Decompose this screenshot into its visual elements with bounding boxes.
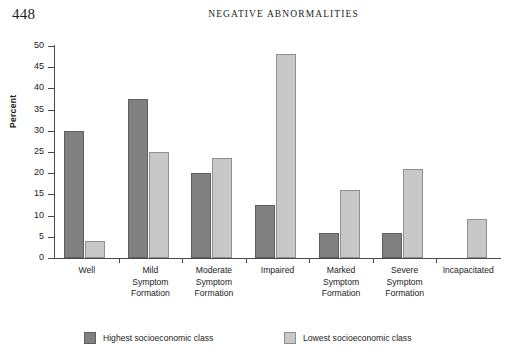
x-axis-group-label: ModerateSymptomFormation (182, 265, 246, 300)
y-axis-tick-label: 50 (24, 40, 44, 50)
bar (319, 233, 339, 258)
legend-label: Highest socioeconomic class (103, 333, 213, 343)
bar (85, 241, 105, 258)
x-axis-tick (119, 258, 120, 263)
y-axis-tick-label: 25 (24, 146, 44, 156)
bar (149, 152, 169, 258)
x-axis-label-line: Symptom (309, 277, 373, 289)
x-axis-tick (373, 258, 374, 263)
legend-swatch-dark (84, 332, 96, 344)
y-axis-tick (48, 216, 55, 217)
x-axis-label-line: Formation (119, 288, 183, 300)
y-axis-tick-label: 10 (24, 210, 44, 220)
x-axis-label-line: Mild (119, 265, 183, 277)
x-axis-line (54, 258, 501, 259)
y-axis-tick-label: 45 (24, 61, 44, 71)
y-axis-tick (48, 194, 55, 195)
x-axis-tick (182, 258, 183, 263)
y-axis-tick-label: 20 (24, 167, 44, 177)
y-axis-tick-label: 30 (24, 125, 44, 135)
y-axis-label: Percent (8, 95, 18, 128)
plot-area (55, 46, 500, 258)
x-axis-label-line: Marked (309, 265, 373, 277)
x-axis-tick (436, 258, 437, 263)
x-axis-label-line: Symptom (373, 277, 437, 289)
y-axis-tick-label: 40 (24, 82, 44, 92)
legend-swatch-light (284, 332, 296, 344)
x-axis-label-line: Moderate (182, 265, 246, 277)
y-axis-tick (48, 258, 55, 259)
x-axis-tick (246, 258, 247, 263)
bar-chart: Percent 05101520253035404550 WellMildSym… (0, 0, 527, 320)
bar (382, 233, 402, 258)
y-axis-tick (48, 173, 55, 174)
x-axis-label-line: Formation (182, 288, 246, 300)
y-axis-tick (48, 152, 55, 153)
y-axis-tick (48, 88, 55, 89)
bar (403, 169, 423, 258)
legend-item: Highest socioeconomic class (84, 332, 213, 344)
x-axis-label-line: Incapacitated (436, 265, 500, 277)
bar (212, 158, 232, 258)
y-axis-tick (48, 67, 55, 68)
bar (64, 131, 84, 258)
x-axis-group-label: Well (55, 265, 119, 277)
bar (255, 205, 275, 258)
y-axis-tick-label: 5 (24, 231, 44, 241)
y-axis-tick-label: 15 (24, 188, 44, 198)
x-axis-label-line: Symptom (182, 277, 246, 289)
legend-item: Lowest socioeconomic class (284, 332, 411, 344)
x-axis-group-label: MildSymptomFormation (119, 265, 183, 300)
x-axis-label-line: Formation (373, 288, 437, 300)
y-axis-tick (48, 46, 55, 47)
x-axis-label-line: Symptom (119, 277, 183, 289)
y-axis-tick (48, 131, 55, 132)
bar (467, 219, 487, 258)
y-axis-tick (48, 110, 55, 111)
y-axis-tick (48, 237, 55, 238)
bar (191, 173, 211, 258)
x-axis-label-line: Impaired (246, 265, 310, 277)
bar (128, 99, 148, 258)
x-axis-group-label: SevereSymptomFormation (373, 265, 437, 300)
x-axis-label-line: Well (55, 265, 119, 277)
x-axis-group-label: Impaired (246, 265, 310, 277)
legend-label: Lowest socioeconomic class (303, 333, 411, 343)
bar (340, 190, 360, 258)
chart-legend: Highest socioeconomic classLowest socioe… (0, 332, 527, 354)
x-axis-label-line: Severe (373, 265, 437, 277)
bar (276, 54, 296, 258)
x-axis-group-label: Incapacitated (436, 265, 500, 277)
x-axis-tick (309, 258, 310, 263)
y-axis-tick-label: 0 (24, 252, 44, 262)
y-axis-tick-label: 35 (24, 104, 44, 114)
x-axis-group-label: MarkedSymptomFormation (309, 265, 373, 300)
x-axis-label-line: Formation (309, 288, 373, 300)
